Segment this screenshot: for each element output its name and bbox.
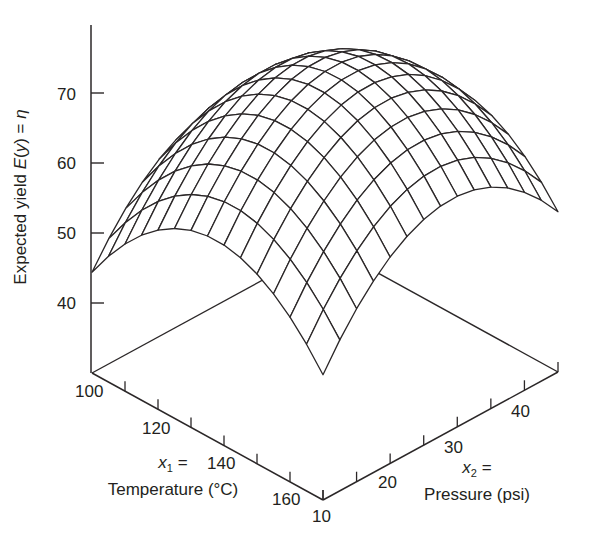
- x2-tick-label-20: 20: [378, 474, 397, 491]
- z-tick-label-70: 70: [42, 86, 76, 103]
- z-tick-label-60: 60: [42, 155, 76, 172]
- z-title-arg: (y): [11, 138, 30, 158]
- x1-axis-title: x1 = Temperature (°C): [88, 452, 258, 501]
- z-tick-label-50: 50: [42, 225, 76, 242]
- x2-tick-label-10: 10: [312, 508, 331, 525]
- x1-tick-label-120: 120: [142, 420, 170, 437]
- x2-tick-label-40: 40: [511, 403, 530, 420]
- z-tick-label-40: 40: [42, 295, 76, 312]
- x2-tick-label-30: 30: [444, 439, 463, 456]
- x2-axis-title: x2 = Pressure (psi): [402, 457, 552, 506]
- x1-tick-label-160: 160: [272, 491, 300, 508]
- response-surface-mesh: [92, 49, 558, 375]
- x1-tick-label-100: 100: [75, 383, 103, 400]
- z-axis-title: Expected yield E(y) = η: [11, 109, 31, 284]
